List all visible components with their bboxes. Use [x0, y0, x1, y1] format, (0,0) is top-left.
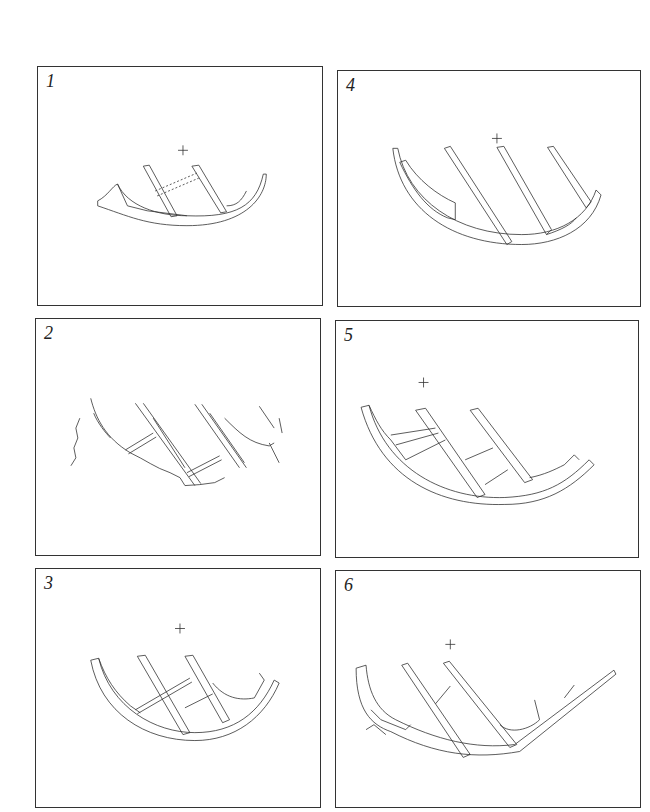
- panel-6: 6: [335, 570, 641, 808]
- panel-1: 1: [37, 66, 323, 306]
- hull-section-drawing: [36, 569, 320, 807]
- hull-section-drawing: [338, 71, 640, 306]
- hull-section-drawing: [38, 67, 322, 305]
- hull-section-drawing: [336, 321, 638, 557]
- panel-5: 5: [335, 320, 639, 558]
- panel-3: 3: [35, 568, 321, 808]
- panel-4: 4: [337, 70, 641, 307]
- hull-section-drawing: [336, 571, 640, 807]
- panel-2: 2: [35, 318, 321, 556]
- hull-section-drawing: [36, 319, 320, 555]
